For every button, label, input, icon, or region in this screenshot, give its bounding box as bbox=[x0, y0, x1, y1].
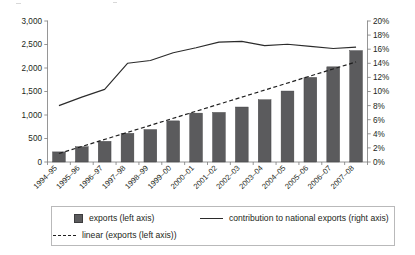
bar bbox=[235, 107, 248, 162]
left-axis-tick-label: 2,500 bbox=[22, 40, 43, 49]
bar bbox=[121, 133, 134, 162]
bar bbox=[304, 77, 317, 162]
left-axis-tick-label: 500 bbox=[28, 134, 42, 143]
bar bbox=[190, 113, 203, 162]
category-axis-label: 1994–95 bbox=[32, 164, 59, 191]
legend-label-linear: linear (exports (left axis)) bbox=[82, 231, 177, 240]
category-axis-label: 1996–97 bbox=[77, 164, 104, 191]
right-axis-tick-label: 12% bbox=[373, 73, 389, 82]
left-axis-tick-label: 3,000 bbox=[22, 17, 43, 26]
right-axis-tick-label: 20% bbox=[373, 17, 389, 26]
category-axis-label: 2006–07 bbox=[306, 164, 333, 191]
left-axis-tick-label: 0 bbox=[37, 158, 42, 167]
bar bbox=[75, 147, 88, 162]
category-axis-label: 2003–04 bbox=[237, 164, 264, 191]
category-axis-label: 1999–00 bbox=[146, 164, 173, 191]
left-axis-tick-label: 1,500 bbox=[22, 87, 43, 96]
chart-legend: exports (left axis) contribution to nati… bbox=[51, 206, 395, 246]
left-axis-tick-label: 1,000 bbox=[22, 111, 43, 120]
category-axis-label: 2007–08 bbox=[329, 164, 356, 191]
right-axis-tick-label: 14% bbox=[373, 59, 389, 68]
right-axis-tick-label: 6% bbox=[373, 116, 385, 125]
bar bbox=[144, 130, 157, 162]
bar bbox=[327, 67, 340, 162]
left-axis-tick-label: 2,000 bbox=[22, 64, 43, 73]
right-axis-tick-label: 8% bbox=[373, 102, 385, 111]
right-axis-tick-label: 16% bbox=[373, 45, 389, 54]
legend-label-exports: exports (left axis) bbox=[89, 214, 154, 223]
bar bbox=[350, 51, 363, 162]
solid-line-swatch-icon bbox=[200, 218, 223, 219]
category-axis-label: 2001–02 bbox=[192, 164, 219, 191]
legend-row-secondary: linear (exports (left axis)) bbox=[52, 228, 396, 242]
bar bbox=[167, 121, 180, 162]
dashed-line-swatch-icon bbox=[53, 235, 76, 236]
bar-swatch-icon bbox=[74, 214, 83, 223]
legend-row-primary: exports (left axis) contribution to nati… bbox=[52, 211, 396, 225]
right-axis-tick-label: 10% bbox=[373, 87, 389, 96]
bar bbox=[213, 112, 226, 162]
category-axis-label: 2000–01 bbox=[169, 164, 196, 191]
legend-item-contribution[interactable]: contribution to national exports (right … bbox=[200, 214, 389, 223]
chart-container: 05001,0001,5002,0002,5003,0000%2%4%6%8%1… bbox=[0, 0, 415, 255]
category-axis-label: 1997–98 bbox=[100, 164, 127, 191]
category-axis-label: 1998–99 bbox=[123, 164, 150, 191]
category-axis-label: 1995–96 bbox=[54, 164, 81, 191]
legend-item-exports[interactable]: exports (left axis) bbox=[74, 214, 154, 223]
right-axis-tick-label: 4% bbox=[373, 130, 385, 139]
bar bbox=[98, 141, 111, 162]
right-axis-tick-label: 18% bbox=[373, 31, 389, 40]
bar bbox=[258, 100, 271, 162]
chart-plot-area: 05001,0001,5002,0002,5003,0000%2%4%6%8%1… bbox=[0, 0, 415, 200]
bar bbox=[281, 91, 294, 162]
legend-item-linear[interactable]: linear (exports (left axis)) bbox=[53, 231, 177, 240]
category-axis-label: 2004–05 bbox=[260, 164, 287, 191]
legend-label-contribution: contribution to national exports (right … bbox=[229, 214, 389, 223]
right-axis-tick-label: 2% bbox=[373, 144, 385, 153]
category-axis-label: 2002–03 bbox=[214, 164, 241, 191]
right-axis-tick-label: 0% bbox=[373, 158, 385, 167]
category-axis-label: 2005–06 bbox=[283, 164, 310, 191]
